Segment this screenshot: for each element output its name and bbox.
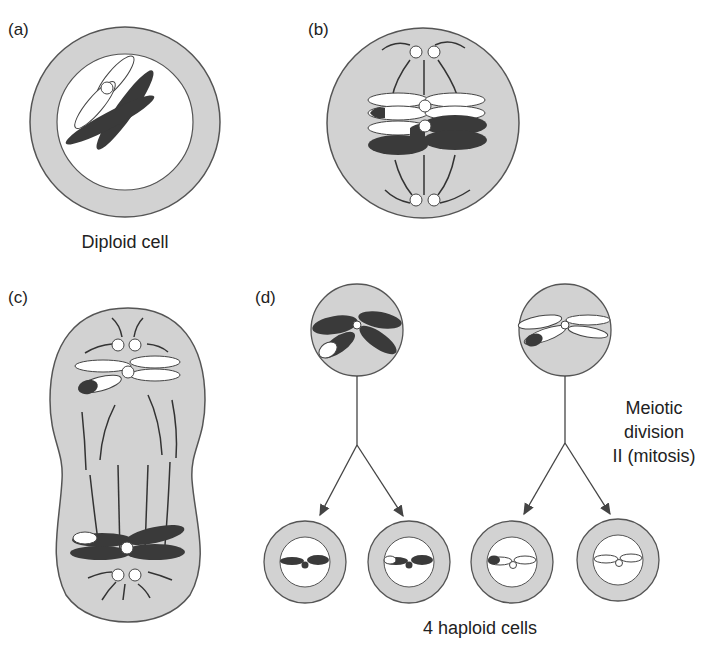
haploid-cell-1 xyxy=(264,521,346,603)
metaphase-cell xyxy=(327,28,519,218)
diploid-cell xyxy=(30,27,220,217)
haploid-cell-2 xyxy=(368,521,450,603)
haploid-cell-4 xyxy=(577,519,659,601)
anaphase-cell xyxy=(50,308,205,622)
meiosis-diagram xyxy=(0,0,710,648)
haploid-cell-3 xyxy=(471,521,553,603)
daughter-cell-left xyxy=(311,284,403,376)
division-arrows xyxy=(320,376,610,516)
daughter-cell-right xyxy=(517,284,611,376)
